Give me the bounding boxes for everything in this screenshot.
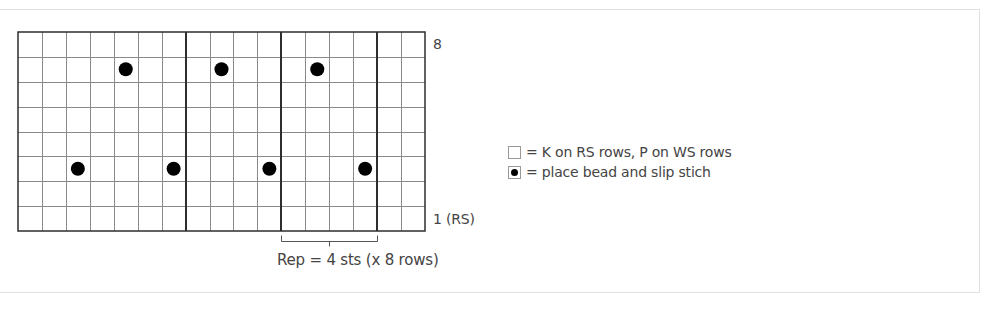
legend-label-bead: = place bead and slip stich bbox=[526, 164, 711, 180]
bead-dot-icon bbox=[358, 162, 372, 176]
bead-dot-icon bbox=[262, 162, 276, 176]
repeat-bracket bbox=[282, 236, 378, 242]
row-label-top: 8 bbox=[433, 36, 442, 52]
bead-dot-icon bbox=[71, 162, 85, 176]
legend-label-knit: = K on RS rows, P on WS rows bbox=[526, 144, 732, 160]
bead-dot-icon bbox=[119, 62, 133, 76]
bead-dot-icon bbox=[167, 162, 181, 176]
legend: = K on RS rows, P on WS rows = place bea… bbox=[508, 142, 732, 182]
bead-dot-icon bbox=[508, 166, 521, 179]
legend-item-knit: = K on RS rows, P on WS rows bbox=[508, 142, 732, 162]
empty-square-icon bbox=[508, 146, 521, 159]
grid-background bbox=[18, 32, 425, 231]
legend-item-bead: = place bead and slip stich bbox=[508, 162, 732, 182]
bead-dot-icon bbox=[215, 62, 229, 76]
bead-dot-icon bbox=[310, 62, 324, 76]
knitting-chart bbox=[0, 0, 990, 309]
repeat-label: Rep = 4 sts (x 8 rows) bbox=[277, 251, 439, 269]
row-label-bottom: 1 (RS) bbox=[433, 211, 475, 227]
